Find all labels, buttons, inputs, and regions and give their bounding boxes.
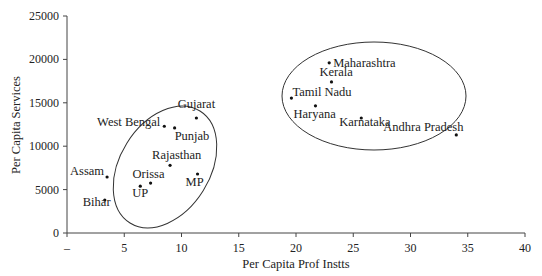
point-label: Rajasthan <box>152 148 202 162</box>
data-point-orissa: Orissa <box>133 167 165 185</box>
y-tick-label: 15000 <box>29 96 59 110</box>
x-axis: –510152025303540 Per Capita Prof Instts <box>63 233 531 271</box>
low-cluster-ellipse <box>92 87 238 247</box>
point-label: West Bengal <box>97 115 161 129</box>
x-tick-label: 40 <box>519 241 531 255</box>
y-tick-label: 25000 <box>29 9 59 23</box>
point-label: Assam <box>70 164 104 178</box>
data-point-rajasthan: Rajasthan <box>152 148 202 167</box>
x-tick-label: 10 <box>176 241 188 255</box>
point-label: Kerala <box>319 65 353 79</box>
y-axis-label: Per Capita Services <box>9 76 23 174</box>
point-label: Tamil Nadu <box>292 85 352 99</box>
data-point-assam: Assam <box>70 164 109 179</box>
y-axis: 0500010000150002000025000 Per Capita Ser… <box>9 9 67 240</box>
data-point-mp: MP <box>186 172 204 189</box>
data-point-punjab: Punjab <box>173 126 209 143</box>
x-axis-label: Per Capita Prof Instts <box>242 257 349 271</box>
y-tick-label: 20000 <box>29 52 59 66</box>
y-tick-label: 10000 <box>29 139 59 153</box>
point-label: Punjab <box>175 129 210 143</box>
data-point-tamil-nadu: Tamil Nadu <box>290 85 353 100</box>
data-point-up: UP <box>132 185 148 201</box>
x-tick-label: – <box>63 241 71 255</box>
x-tick-label: 20 <box>290 241 302 255</box>
x-tick-label: 15 <box>233 241 245 255</box>
y-tick-label: 5000 <box>35 183 59 197</box>
point-label: Gujarat <box>178 97 216 111</box>
x-tick-label: 25 <box>347 241 359 255</box>
data-point-gujarat: Gujarat <box>178 97 216 120</box>
data-points: GujaratWest BengalPunjabRajasthanAssamOr… <box>70 56 464 209</box>
x-tick-label: 5 <box>121 241 127 255</box>
point-label: UP <box>132 186 148 200</box>
scatter-chart: 0500010000150002000025000 Per Capita Ser… <box>0 0 542 276</box>
data-point-andhra-pradesh: Andhra Pradesh <box>383 120 464 137</box>
point-label: Orissa <box>133 167 165 181</box>
x-tick-label: 30 <box>405 241 417 255</box>
data-point-kerala: Kerala <box>319 65 353 84</box>
point-label: MP <box>186 175 204 189</box>
cluster-ellipses <box>92 42 466 247</box>
data-point-bihar: Bihar <box>83 195 112 209</box>
x-tick-label: 35 <box>462 241 474 255</box>
point-label: Bihar <box>83 195 112 209</box>
data-point-haryana: Haryana <box>293 104 336 121</box>
point-label: Andhra Pradesh <box>383 120 464 134</box>
y-tick-label: 0 <box>53 226 59 240</box>
data-point-west-bengal: West Bengal <box>97 115 166 129</box>
point-label: Haryana <box>293 107 336 121</box>
